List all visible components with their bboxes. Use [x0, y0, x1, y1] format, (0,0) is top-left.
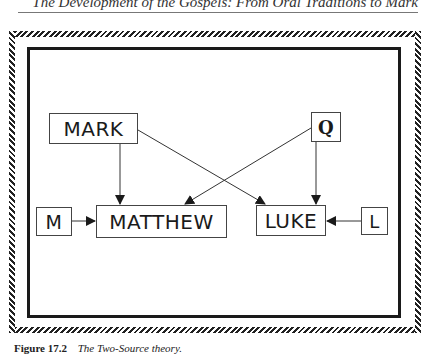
node-l: L [361, 207, 388, 235]
edge-q-matthew [185, 128, 311, 204]
figure-title: The Two-Source theory. [78, 342, 182, 354]
diagram-edges [0, 0, 430, 360]
node-m: M [36, 207, 72, 236]
node-mark: MARK [49, 113, 138, 144]
node-mark-label: MARK [64, 117, 124, 141]
node-luke: LUKE [256, 205, 326, 236]
node-m-label: M [46, 211, 63, 233]
node-q-label: Q [318, 117, 334, 138]
node-luke-label: LUKE [265, 209, 318, 233]
node-matthew-label: MATTHEW [109, 210, 213, 234]
node-l-label: L [369, 211, 380, 232]
figure-caption: Figure 17.2 The Two-Source theory. [14, 342, 182, 354]
node-q: Q [311, 112, 341, 142]
node-matthew: MATTHEW [96, 205, 227, 238]
figure-number: Figure 17.2 [14, 342, 67, 354]
